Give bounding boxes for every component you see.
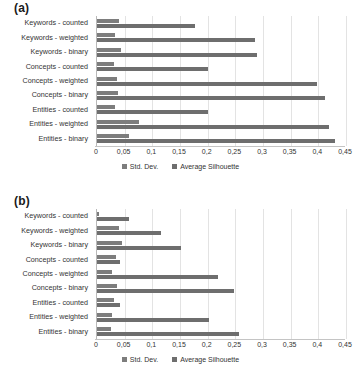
bar-average-silhouette <box>97 246 181 250</box>
chart-a-category-axis: Keywords - countedKeywords - weightedKey… <box>0 16 92 146</box>
axis-tick-label: 0,25 <box>228 148 242 155</box>
bar-average-silhouette <box>97 110 208 114</box>
axis-tick-label: 0,45 <box>338 148 352 155</box>
bar-average-silhouette <box>97 82 317 86</box>
axis-tick-label: 0,45 <box>338 341 352 348</box>
axis-tick-label: 0 <box>94 341 98 348</box>
bar-group <box>97 119 346 133</box>
category-label: Entities - binary <box>0 135 88 143</box>
panel-b-label: (b) <box>14 194 30 208</box>
axis-tick-label: 0,35 <box>283 148 297 155</box>
bar-group <box>97 90 346 104</box>
bar-group <box>97 225 346 239</box>
bar-std-dev <box>97 327 111 331</box>
chart-a-axis-line <box>95 146 345 147</box>
category-label: Keywords - counted <box>0 19 88 27</box>
panel-a-label: (a) <box>14 1 29 15</box>
bar-std-dev <box>97 77 117 81</box>
bar-group <box>97 47 346 61</box>
axis-tick-label: 0,3 <box>257 148 267 155</box>
axis-tick-label: 0,3 <box>257 341 267 348</box>
bar-group <box>97 297 346 311</box>
chart-b-legend: Std. Dev.Average Silhouette <box>0 356 361 363</box>
bar-std-dev <box>97 62 114 66</box>
gridline <box>346 209 347 339</box>
bar-group <box>97 240 346 254</box>
chart-b: Keywords - countedKeywords - weightedKey… <box>0 209 361 339</box>
category-label: Concepts - binary <box>0 91 88 99</box>
axis-tick-label: 0,25 <box>228 341 242 348</box>
category-label: Entities - weighted <box>0 120 88 128</box>
chart-a: Keywords - countedKeywords - weightedKey… <box>0 16 361 146</box>
axis-tick-label: 0,05 <box>117 148 131 155</box>
bar-average-silhouette <box>97 303 120 307</box>
bar-group <box>97 269 346 283</box>
bar-group <box>97 32 346 46</box>
category-label: Keywords - weighted <box>0 227 88 235</box>
bar-std-dev <box>97 313 112 317</box>
category-label: Entities - weighted <box>0 313 88 321</box>
bar-average-silhouette <box>97 332 239 336</box>
legend-swatch-icon <box>172 164 177 169</box>
category-label: Keywords - binary <box>0 48 88 56</box>
category-label: Concepts - counted <box>0 63 88 71</box>
bar-std-dev <box>97 255 116 259</box>
bar-std-dev <box>97 284 117 288</box>
bar-group <box>97 312 346 326</box>
legend-item: Average Silhouette <box>172 356 239 363</box>
bar-std-dev <box>97 33 115 37</box>
bar-average-silhouette <box>97 231 161 235</box>
chart-a-legend: Std. Dev.Average Silhouette <box>0 163 361 170</box>
bar-average-silhouette <box>97 38 255 42</box>
axis-tick-label: 0,15 <box>172 341 186 348</box>
bar-std-dev <box>97 120 139 124</box>
bar-average-silhouette <box>97 53 257 57</box>
gridline <box>346 16 347 146</box>
axis-tick-label: 0,1 <box>146 341 156 348</box>
bar-average-silhouette <box>97 24 195 28</box>
legend-label: Average Silhouette <box>180 163 239 170</box>
bar-group <box>97 104 346 118</box>
axis-tick-label: 0,05 <box>117 341 131 348</box>
axis-tick-label: 0,4 <box>312 148 322 155</box>
bar-std-dev <box>97 212 99 216</box>
bar-average-silhouette <box>97 318 209 322</box>
bar-average-silhouette <box>97 125 329 129</box>
bar-average-silhouette <box>97 260 120 264</box>
bar-average-silhouette <box>97 139 335 143</box>
bar-group <box>97 18 346 32</box>
axis-tick-label: 0,1 <box>146 148 156 155</box>
category-label: Concepts - binary <box>0 284 88 292</box>
bar-group <box>97 211 346 225</box>
axis-tick-label: 0,2 <box>202 148 212 155</box>
bar-std-dev <box>97 298 114 302</box>
bar-std-dev <box>97 226 119 230</box>
bar-std-dev <box>97 241 122 245</box>
panel-a: (a) Keywords - countedKeywords - weighte… <box>0 0 361 193</box>
bar-std-dev <box>97 270 112 274</box>
chart-b-value-axis: 00,050,10,150,20,250,30,350,40,45 <box>96 339 345 351</box>
chart-a-value-axis: 00,050,10,150,20,250,30,350,40,45 <box>96 146 345 158</box>
legend-item: Std. Dev. <box>122 163 158 170</box>
chart-b-category-axis: Keywords - countedKeywords - weightedKey… <box>0 209 92 339</box>
legend-item: Std. Dev. <box>122 356 158 363</box>
category-label: Entities - binary <box>0 328 88 336</box>
axis-tick-label: 0,4 <box>312 341 322 348</box>
category-label: Entities - counted <box>0 299 88 307</box>
axis-tick-label: 0,2 <box>202 341 212 348</box>
bar-std-dev <box>97 19 119 23</box>
axis-tick-label: 0 <box>94 148 98 155</box>
axis-tick-label: 0,15 <box>172 148 186 155</box>
legend-swatch-icon <box>172 357 177 362</box>
legend-label: Average Silhouette <box>180 356 239 363</box>
legend-label: Std. Dev. <box>130 163 158 170</box>
bar-group <box>97 283 346 297</box>
category-label: Concepts - counted <box>0 256 88 264</box>
chart-b-plot <box>96 209 346 339</box>
bar-group <box>97 254 346 268</box>
category-label: Concepts - weighted <box>0 270 88 278</box>
bar-std-dev <box>97 134 129 138</box>
category-label: Keywords - binary <box>0 241 88 249</box>
legend-swatch-icon <box>122 357 127 362</box>
legend-swatch-icon <box>122 164 127 169</box>
